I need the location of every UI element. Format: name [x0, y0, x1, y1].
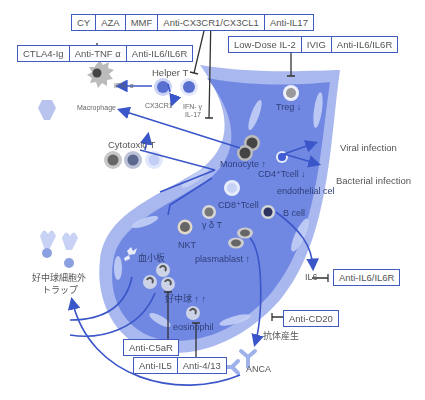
drug-anti-il17: Anti-IL17: [264, 15, 313, 30]
drug-ctla4-ig: CTLA4-Ig: [18, 46, 69, 61]
label-il17: IL-17: [185, 109, 201, 120]
label-cd4-tcell: CD4⁺Tcell ↓: [258, 169, 306, 180]
label-antibody-production: 抗体産生: [263, 331, 299, 342]
label-b-cell: B cell: [283, 208, 305, 219]
label-il6: IL6: [305, 272, 318, 283]
drug-box-top: CY AZA MMF Anti-CX3CR1/CX3CL1 Anti-IL17: [71, 14, 314, 31]
drug-box-left: CTLA4-Ig Anti-TNF α Anti-IL6/IL6R: [17, 45, 193, 62]
label-plasmablast: plasmablast ↑: [195, 254, 250, 265]
label-gamma-delta-t: γ δ T: [202, 220, 222, 231]
label-endothelial-cell: endothelial cel: [277, 186, 335, 197]
drug-box-bottom: Anti-IL5 Anti-4/13: [133, 357, 227, 374]
label-cytotoxic-t: Cytotoxic T: [108, 139, 155, 150]
helper-t-cells: [154, 78, 198, 96]
label-net-line1: 好中球細胞外: [32, 273, 86, 284]
label-net-line2: トラップ: [42, 285, 78, 296]
cd8-tcell: [224, 180, 240, 196]
drug-mmf: MMF: [125, 15, 158, 30]
label-treg: Treg ↓: [276, 102, 301, 113]
label-ifn-alpha: IFN- α: [114, 80, 134, 91]
label-cd8-tcell: CD8⁺Tcell: [218, 200, 259, 211]
label-cx3cr1: CX3CR1: [145, 100, 173, 111]
drug-anti-il6-right: Anti-IL6/IL6R: [331, 37, 397, 52]
drug-anti-cd20: Anti-CD20: [284, 311, 338, 326]
label-viral-infection: Viral infection: [340, 142, 397, 153]
drug-anti-tnf: Anti-TNF α: [69, 46, 126, 61]
drug-anti-il6-il6: Anti-IL6/IL6R: [334, 270, 399, 285]
drug-anti-il6-left: Anti-IL6/IL6R: [126, 46, 192, 61]
drug-anti-4-13: Anti-4/13: [177, 358, 226, 373]
gamma-delta-t-cell: [202, 205, 216, 219]
drug-box-c5ar: Anti-C5aR: [123, 339, 179, 356]
label-eosinophil: eosinophil: [173, 322, 214, 333]
treg-cell: [283, 85, 299, 101]
drug-box-cd20: Anti-CD20: [283, 310, 339, 327]
drug-cy: CY: [72, 15, 95, 30]
drug-aza: AZA: [95, 15, 124, 30]
label-nkt: NKT: [178, 240, 196, 251]
net-icon: [38, 100, 78, 268]
label-neutrophil: 好中球 ↑ ↑: [165, 294, 206, 305]
drug-anti-cx3cr1: Anti-CX3CR1/CX3CL1: [157, 15, 264, 30]
label-platelet: 血小板: [138, 253, 165, 264]
drug-ivig: IVIG: [301, 37, 331, 52]
macrophage-cell: [87, 60, 114, 88]
drug-anti-c5ar: Anti-C5aR: [124, 340, 178, 355]
label-bacterial-infection: Bacterial infection: [336, 175, 411, 186]
label-anca: ANCA: [246, 364, 271, 375]
b-cell: [261, 205, 275, 219]
drug-low-dose-il2: Low-Dose IL-2: [229, 37, 301, 52]
drug-box-il6: Anti-IL6/IL6R: [333, 269, 400, 286]
eosinophil-cell: [186, 306, 200, 320]
label-macrophage: Macrophage: [77, 102, 116, 113]
nkt-cell: [178, 220, 193, 235]
drug-box-right: Low-Dose IL-2 IVIG Anti-IL6/IL6R: [228, 36, 398, 53]
drug-anti-il5: Anti-IL5: [134, 358, 177, 373]
label-helper-t: Helper T: [152, 67, 188, 78]
